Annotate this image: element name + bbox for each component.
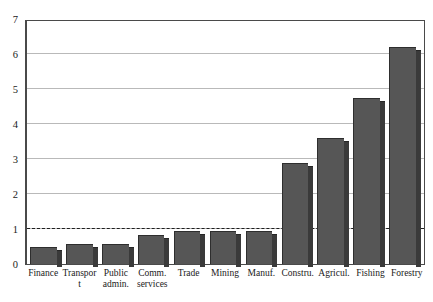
bar-side-shadow xyxy=(200,234,205,267)
bar-side-shadow xyxy=(344,141,349,267)
bar-slot xyxy=(351,21,387,264)
bars-layer xyxy=(27,21,424,264)
bar[interactable] xyxy=(174,231,206,264)
bar-slot xyxy=(208,21,244,264)
x-axis-tick-label-line1: Trade xyxy=(178,268,200,278)
bar-side-shadow xyxy=(57,250,62,268)
bar-slot xyxy=(279,21,315,264)
bar[interactable] xyxy=(317,138,349,264)
bar-face xyxy=(174,231,201,264)
bar[interactable] xyxy=(246,231,278,264)
x-axis-tick-label-line1: Fishing xyxy=(356,268,385,278)
bar-slot xyxy=(64,21,100,264)
y-axis-tick-label: 2 xyxy=(0,190,18,201)
x-axis-tick-label-line1: Manuf. xyxy=(247,268,275,278)
x-axis-tick-label-line1: Forestry xyxy=(391,268,423,278)
x-axis-tick-label: Constru. xyxy=(280,268,316,302)
bar-slot xyxy=(387,21,423,264)
y-axis-tick-label: 5 xyxy=(0,85,18,96)
x-axis-tick-label: Agricul. xyxy=(316,268,352,302)
x-axis-tick-label: Transport xyxy=(61,268,97,302)
bar-slot xyxy=(100,21,136,264)
bar-slot xyxy=(243,21,279,264)
y-axis-tick-label: 4 xyxy=(0,120,18,131)
x-axis-tick-label-line1: Mining xyxy=(211,268,239,278)
x-axis-tick-label: Mining xyxy=(207,268,243,302)
x-axis-tick-label-line1: Constru. xyxy=(281,268,313,278)
x-axis: FinanceTransportPublicadmin.Comm.service… xyxy=(25,268,425,302)
bar-face xyxy=(389,47,416,264)
x-axis-tick-label-line1: Comm. xyxy=(138,268,166,278)
bar-chart: 01234567 FinanceTransportPublicadmin.Com… xyxy=(0,0,433,302)
x-axis-tick-label-line2: services xyxy=(135,279,169,290)
x-axis-tick-label: Trade xyxy=(170,268,206,302)
y-axis: 01234567 xyxy=(0,0,18,302)
x-axis-tick-label: Finance xyxy=(25,268,61,302)
bar-face xyxy=(317,138,344,264)
bar-side-shadow xyxy=(380,101,385,267)
bar-side-shadow xyxy=(129,247,134,267)
bar-slot xyxy=(172,21,208,264)
y-axis-tick-label: 6 xyxy=(0,50,18,61)
bar-slot xyxy=(28,21,64,264)
bar[interactable] xyxy=(138,235,170,264)
bar[interactable] xyxy=(389,47,421,264)
x-axis-tick-label-line1: Public xyxy=(104,268,128,278)
bar-side-shadow xyxy=(164,238,169,267)
bar-side-shadow xyxy=(308,166,313,268)
bar-slot xyxy=(136,21,172,264)
bar[interactable] xyxy=(210,231,242,264)
bar[interactable] xyxy=(102,244,134,264)
y-axis-tick-label: 7 xyxy=(0,15,18,26)
bar-slot xyxy=(315,21,351,264)
bar-face xyxy=(353,98,380,264)
bar-face xyxy=(102,244,129,264)
x-axis-tick-label-line2: admin. xyxy=(99,279,133,290)
bar-side-shadow xyxy=(416,50,421,267)
x-axis-tick-label-line1: Finance xyxy=(28,268,58,278)
bar-face xyxy=(138,235,165,264)
x-axis-tick-label: Forestry xyxy=(389,268,425,302)
y-axis-tick-label: 3 xyxy=(0,155,18,166)
bar-face xyxy=(66,244,93,264)
bar-side-shadow xyxy=(236,234,241,267)
x-axis-tick-label: Publicadmin. xyxy=(98,268,134,302)
y-axis-tick-label: 1 xyxy=(0,225,18,236)
bar[interactable] xyxy=(282,163,314,265)
y-axis-tick-label: 0 xyxy=(0,260,18,271)
bar[interactable] xyxy=(30,247,62,265)
bar-side-shadow xyxy=(272,234,277,267)
x-axis-tick-label: Manuf. xyxy=(243,268,279,302)
x-axis-tick-label: Comm.services xyxy=(134,268,170,302)
bar-face xyxy=(246,231,273,264)
bar-face xyxy=(282,163,309,265)
bar-face xyxy=(30,247,57,265)
bar[interactable] xyxy=(353,98,385,264)
x-axis-tick-label-line1: Transport xyxy=(63,268,97,289)
bar-side-shadow xyxy=(93,247,98,267)
bar[interactable] xyxy=(66,244,98,264)
x-axis-tick-label-line1: Agricul. xyxy=(318,268,349,278)
plot-area xyxy=(25,20,425,265)
bar-face xyxy=(210,231,237,264)
x-axis-tick-label: Fishing xyxy=(352,268,388,302)
